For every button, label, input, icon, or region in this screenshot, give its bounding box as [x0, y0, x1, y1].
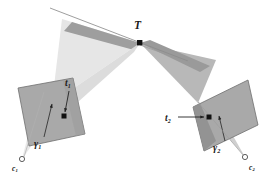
label-image-point-t1: t1: [65, 79, 71, 89]
label-scene-point-T: T: [134, 20, 141, 32]
image-point-t1-marker: [62, 114, 67, 119]
label-camera-center-c2: c2: [249, 164, 255, 172]
label-gamma2-subscript: 2: [217, 147, 220, 154]
scene-point-T-marker: [137, 40, 142, 45]
label-camera-center-c1: c1: [12, 165, 18, 173]
label-ray-gamma2: γ2: [213, 143, 220, 153]
label-image-point-t2: t2: [165, 114, 171, 124]
camera-center-c2-marker: [242, 154, 247, 159]
label-c2-subscript: 2: [252, 167, 254, 172]
label-c1-subscript: 1: [15, 168, 17, 173]
label-t1-subscript: 1: [68, 83, 71, 89]
right-ray-cone-upper: [140, 43, 216, 103]
image-point-t2-marker: [207, 115, 212, 120]
label-ray-gamma1: γ1: [34, 139, 41, 149]
camera-center-c1-marker: [19, 156, 24, 161]
label-t2-subscript: 2: [168, 118, 171, 124]
epipolar-geometry-figure: T t1 t2 γ1 γ2 c1 c2: [0, 0, 269, 178]
label-gamma1-subscript: 1: [38, 143, 41, 150]
